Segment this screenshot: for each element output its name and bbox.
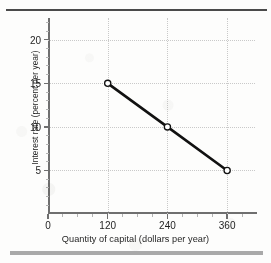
- x-tick: [47, 214, 48, 219]
- x-minor-tick: [62, 214, 63, 217]
- x-axis-title: Quantity of capital (dollars per year): [0, 234, 271, 244]
- y-tick-label: 15: [30, 78, 41, 89]
- data-series: [48, 18, 257, 214]
- x-minor-tick: [122, 214, 123, 217]
- bottom-bar: [10, 251, 263, 255]
- x-tick-label: 120: [99, 220, 116, 231]
- x-tick: [107, 214, 108, 219]
- x-tick-label: 240: [159, 220, 176, 231]
- data-point-marker: [164, 124, 170, 130]
- plot-area: 51015200120240360: [48, 18, 257, 214]
- x-minor-tick: [197, 214, 198, 217]
- x-tick-label: 0: [45, 220, 51, 231]
- x-minor-tick: [212, 214, 213, 217]
- data-point-marker: [224, 167, 230, 173]
- x-tick: [226, 214, 227, 219]
- x-minor-tick: [137, 214, 138, 217]
- y-tick-label: 20: [30, 34, 41, 45]
- x-minor-tick: [92, 214, 93, 217]
- y-tick-label: 10: [30, 121, 41, 132]
- x-tick: [167, 214, 168, 219]
- y-tick-label: 5: [35, 165, 41, 176]
- x-minor-tick: [152, 214, 153, 217]
- x-minor-tick: [242, 214, 243, 217]
- data-point-marker: [105, 80, 111, 86]
- figure-container: Interest rate (percent per year) 5101520…: [0, 0, 271, 263]
- top-rule: [6, 9, 267, 11]
- x-tick-label: 360: [219, 220, 236, 231]
- x-minor-tick: [182, 214, 183, 217]
- x-minor-tick: [77, 214, 78, 217]
